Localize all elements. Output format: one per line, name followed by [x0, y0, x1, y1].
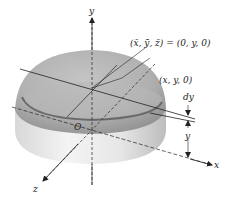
thickness-label: dy [183, 92, 195, 102]
z-axis-label: z [32, 184, 38, 194]
point-annotation: (x, y, 0) [159, 75, 193, 85]
height-label: y [184, 131, 191, 141]
centroid-annotation: (x̄, ȳ, z̄) = (0, y, 0) [130, 38, 211, 48]
y-axis-label: y [88, 6, 95, 16]
x-axis-label: x [214, 160, 219, 170]
hemisphere-diagram: y x z O (x̄, ȳ, z̄) = (0, y, 0) (x, y, 0… [0, 0, 228, 204]
origin-label: O [74, 122, 82, 132]
